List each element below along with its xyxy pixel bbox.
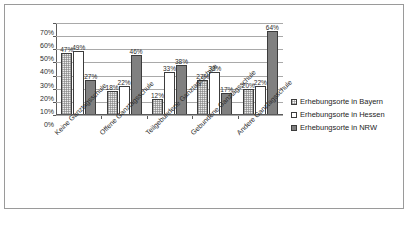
bar-value-label: 12% [151, 92, 164, 99]
legend-item[interactable]: Erhebungsorte in NRW [291, 121, 385, 134]
legend-item[interactable]: Erhebungsorte in Hessen [291, 108, 385, 121]
y-axis-tick-label: 20% [40, 95, 54, 103]
chart-legend: Erhebungsorte in BayernErhebungsorte in … [291, 95, 385, 134]
x-axis-tick-mark [101, 116, 102, 119]
bar-value-label: 33% [163, 65, 176, 72]
legend-swatch-icon [291, 125, 297, 131]
x-axis-tick-mark [192, 116, 193, 119]
y-axis-tick-mark [53, 23, 56, 24]
x-axis-tick-mark [147, 116, 148, 119]
y-axis-tick-label: 50% [40, 55, 54, 63]
y-axis-tick-mark [53, 62, 56, 63]
bar-value-label: 49% [72, 44, 85, 51]
y-axis-tick-mark [53, 115, 56, 116]
bar: 47% [61, 53, 72, 115]
legend-label: Erhebungsorte in Bayern [300, 97, 383, 106]
y-axis-tick-mark [53, 36, 56, 37]
bar-value-label: 27% [84, 73, 97, 80]
y-axis-tick-mark [53, 102, 56, 103]
bar-group: 18%22%46% [101, 23, 146, 115]
y-axis-tick-label: 30% [40, 82, 54, 90]
legend-swatch-icon [291, 112, 297, 118]
legend-swatch-icon [291, 99, 297, 105]
y-axis-tick-mark [53, 49, 56, 50]
y-axis-tick-mark [53, 76, 56, 77]
y-axis-tick-label: 10% [40, 108, 54, 116]
legend-label: Erhebungsorte in Hessen [300, 110, 385, 119]
y-axis-tick-label: 0% [44, 121, 54, 129]
y-axis-tick-label: 70% [40, 29, 54, 37]
bar-value-label: 22% [118, 79, 131, 86]
bar-value-label: 38% [175, 58, 188, 65]
y-axis-tick-label: 40% [40, 68, 54, 76]
bar: 20% [243, 89, 254, 115]
bar-value-label: 64% [266, 24, 279, 31]
chart-frame: 70%60%50%40%30%20%10%0% 47%49%27%18%22%4… [4, 4, 404, 209]
y-axis-tick-mark [53, 89, 56, 90]
legend-label: Erhebungsorte in NRW [300, 123, 377, 132]
x-axis-tick-mark [238, 116, 239, 119]
y-axis-tick-labels: 70%60%50%40%30%20%10%0% [29, 19, 54, 119]
bar-value-label: 46% [130, 48, 143, 55]
y-axis-tick-label: 60% [40, 42, 54, 50]
bar: 18% [107, 91, 118, 115]
legend-item[interactable]: Erhebungsorte in Bayern [291, 95, 385, 108]
bar-value-label: 22% [254, 79, 267, 86]
